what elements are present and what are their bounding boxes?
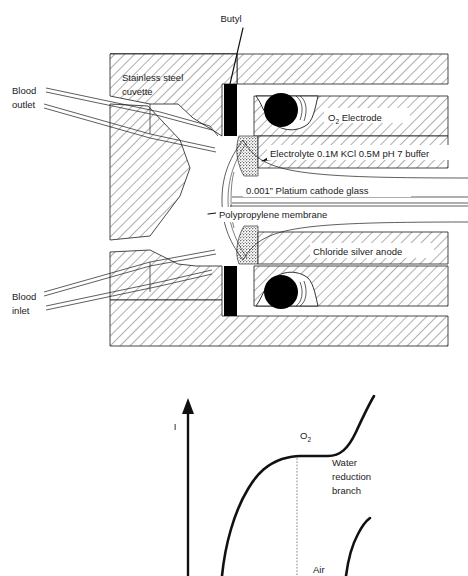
label-o2-electrode-word: Electrode [339,112,382,123]
polarogram-chart: I O2 Water reduction branch Air [174,396,374,576]
chart-annotation-water-line3: branch [332,485,361,496]
label-chloride-silver-anode: Chloride silver anode [310,243,434,258]
label-o2-electrode: O2 Electrode [324,108,410,125]
label-o2-electrode-o: O [328,112,335,123]
svg-text:Electrolyte 0.1M KCl 0.5M pH 7: Electrolyte 0.1M KCl 0.5M pH 7 buffer [270,148,429,159]
chart-annotation-air: Air [313,564,325,575]
air-polarogram-curve [346,518,370,576]
platinum-cathode-glass-stem [230,197,468,206]
label-blood-outlet-line1: Blood [12,85,36,96]
label-electrolyte: Electrolyte 0.1M KCl 0.5M pH 7 buffer [267,145,464,160]
cuvette-left-lower-block [110,250,222,300]
label-blood-outlet-line2: outlet [12,99,36,110]
butyl-seal-lower [224,266,237,316]
label-platinum-cathode: 0.001” Platium cathode glass [243,182,411,197]
chart-y-axis-label: I [174,421,177,432]
svg-text:0.001” Platium cathode glass: 0.001” Platium cathode glass [246,185,369,196]
label-polypropylene-membrane: Polypropylene membrane [216,207,362,222]
label-cuvette-line2: cuvette [122,86,153,97]
chart-annotation-water-line1: Water [332,457,357,468]
chart-annotation-o2: O2 [300,430,311,443]
label-butyl: Butyl [220,13,241,24]
label-blood-inlet-line2: inlet [12,305,30,316]
y-axis-arrowhead [182,398,194,414]
chart-y-axis [182,398,194,576]
label-cuvette-line1: Stainless steel [122,72,183,83]
butyl-seal-upper [224,84,237,136]
label-blood-inlet-line1: Blood [12,291,36,302]
figure-canvas: Butyl Stainless steel cuvette Blood outl… [0,0,468,576]
electrolyte-upper [237,136,258,176]
chart-annotation-water-line2: reduction [332,471,371,482]
cuvette-cross-section: Butyl Stainless steel cuvette Blood outl… [12,13,468,346]
figure-page: Butyl Stainless steel cuvette Blood outl… [0,0,468,576]
svg-text:Chloride silver anode: Chloride silver anode [313,246,402,257]
svg-text:Polypropylene membrane: Polypropylene membrane [219,209,327,220]
